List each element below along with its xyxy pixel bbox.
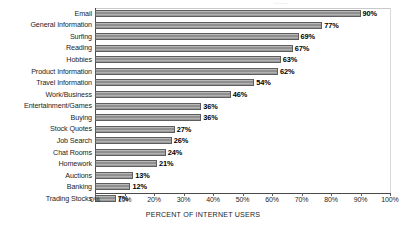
bar-track: 69% (95, 31, 406, 43)
bar (95, 45, 293, 52)
category-label: Reading (0, 44, 95, 52)
category-label: Stock Quotes (0, 125, 95, 133)
bar-value-label: 21% (159, 158, 174, 169)
x-tick-label: 80% (324, 196, 338, 203)
bar-row: Banking12% (0, 181, 406, 193)
bar (95, 103, 201, 110)
bar-row: Entertainment/Games36% (0, 101, 406, 113)
bar-track: 63% (95, 54, 406, 66)
bar-value-label: 24% (168, 147, 183, 158)
bar (95, 68, 278, 75)
bar-value-label: 36% (203, 101, 218, 112)
x-tick-label: 20% (147, 196, 161, 203)
bar-track: 26% (95, 135, 406, 147)
category-label: Homework (0, 160, 95, 168)
x-tick-label: 0% (90, 196, 100, 203)
category-label: Email (0, 10, 95, 18)
category-label: Entertainment/Games (0, 102, 95, 110)
bar (95, 33, 299, 40)
bar-value-label: 12% (132, 181, 147, 192)
bar-row: General Information77% (0, 20, 406, 32)
bar-track: 36% (95, 101, 406, 113)
bar (95, 160, 157, 167)
bar (95, 22, 322, 29)
bar-value-label: 26% (174, 135, 189, 146)
category-label: Buying (0, 114, 95, 122)
category-label: Auctions (0, 172, 95, 180)
category-label: Product Information (0, 68, 95, 76)
x-axis-ticks: 0%10%20%30%40%50%60%70%80%90%100% (0, 193, 406, 203)
category-label: Job Search (0, 137, 95, 145)
bar-chart: ——— Email90%General Information77%Surfin… (0, 0, 406, 225)
bar-value-label: 90% (363, 8, 378, 19)
bar-row: Email90% (0, 8, 406, 20)
bar-value-label: 54% (256, 77, 271, 88)
bar-row: Travel Information54% (0, 77, 406, 89)
bar (95, 149, 166, 156)
bar-track: 36% (95, 112, 406, 124)
bar-track: 13% (95, 170, 406, 182)
bar (95, 183, 130, 190)
bar (95, 172, 133, 179)
x-tick-label: 100% (381, 196, 399, 203)
x-tick-label: 40% (206, 196, 220, 203)
bar-value-label: 27% (177, 124, 192, 135)
bar-value-label: 69% (301, 31, 316, 42)
bar-row: Work/Business46% (0, 89, 406, 101)
bar-row: Surfing69% (0, 31, 406, 43)
bar-track: 27% (95, 124, 406, 136)
bar-value-label: 67% (295, 43, 310, 54)
bar-track: 21% (95, 158, 406, 170)
bar-row: Homework21% (0, 158, 406, 170)
bar-row: Reading67% (0, 43, 406, 55)
bar (95, 126, 175, 133)
bar-value-label: 46% (233, 89, 248, 100)
bar (95, 114, 201, 121)
bar-rows: Email90%General Information77%Surfing69%… (0, 8, 406, 193)
cut-off-title-artifact: ——— (248, 0, 314, 4)
bar-row: Chat Rooms24% (0, 147, 406, 159)
x-tick-label: 50% (236, 196, 250, 203)
x-tick-label: 30% (177, 196, 191, 203)
category-label: Travel Information (0, 79, 95, 87)
category-label: Work/Business (0, 91, 95, 99)
category-label: Hobbies (0, 56, 95, 64)
bar-value-label: 63% (283, 54, 298, 65)
x-tick-label: 60% (265, 196, 279, 203)
bar (95, 79, 254, 86)
bar-row: Buying36% (0, 112, 406, 124)
bar-track: 77% (95, 20, 406, 32)
x-tick-label: 70% (295, 196, 309, 203)
bar-track: 12% (95, 181, 406, 193)
bar (95, 91, 231, 98)
bar (95, 137, 172, 144)
bar-track: 24% (95, 147, 406, 159)
bar-row: Stock Quotes27% (0, 124, 406, 136)
category-label: General Information (0, 21, 95, 29)
bar (95, 10, 361, 17)
bar-track: 54% (95, 77, 406, 89)
x-axis-title: PERCENT OF INTERNET USERS (0, 211, 406, 219)
bar-track: 67% (95, 43, 406, 55)
bar-row: Product Information62% (0, 66, 406, 78)
category-label: Banking (0, 183, 95, 191)
bar-row: Hobbies63% (0, 54, 406, 66)
bar-row: Job Search26% (0, 135, 406, 147)
bar-value-label: 13% (135, 170, 150, 181)
category-label: Surfing (0, 33, 95, 41)
category-label: Chat Rooms (0, 149, 95, 157)
x-tick-label: 10% (118, 196, 132, 203)
bar-track: 62% (95, 66, 406, 78)
bar-row: Auctions13% (0, 170, 406, 182)
x-tick-label: 90% (354, 196, 368, 203)
bar-track: 46% (95, 89, 406, 101)
bar-track: 90% (95, 8, 406, 20)
bar-value-label: 62% (280, 66, 295, 77)
bar (95, 56, 281, 63)
bar-value-label: 36% (203, 112, 218, 123)
bar-value-label: 77% (324, 20, 339, 31)
